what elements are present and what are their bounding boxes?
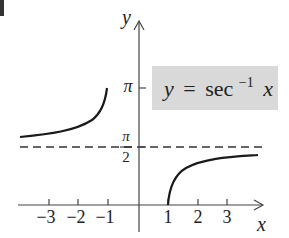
y-axis-label: y — [120, 6, 131, 29]
svg-text:−1: −1 — [95, 207, 114, 227]
x-ticks — [49, 199, 227, 205]
svg-text:−2: −2 — [66, 207, 85, 227]
x-tick-labels: −3 −2 −1 1 2 3 — [36, 207, 231, 227]
y-tick-label-pi: π — [123, 76, 133, 96]
y-tick-label-pi-half-num: π — [122, 128, 130, 144]
y-tick-label-pi-half-den: 2 — [122, 149, 130, 165]
left-branch-curve — [20, 88, 107, 137]
right-branch-curve — [168, 155, 258, 205]
x-axis-label: x — [256, 213, 266, 235]
svg-text:1: 1 — [164, 207, 173, 227]
svg-text:2: 2 — [194, 207, 203, 227]
svg-text:−3: −3 — [36, 207, 55, 227]
arcsecant-chart: y = sec −1 x −3 −2 −1 1 2 3 π π 2 y x — [0, 0, 289, 238]
svg-text:3: 3 — [223, 207, 232, 227]
